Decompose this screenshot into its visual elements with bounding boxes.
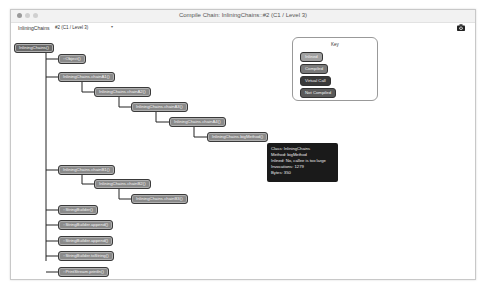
tree-node[interactable]: ::StringBuilder(): [58, 205, 98, 215]
title-bar: Compile Chain: InliningChains::#2 (C1 / …: [11, 10, 475, 23]
tree-node[interactable]: ::StringBuilder.append(): [58, 236, 113, 246]
tree-node[interactable]: InliningChains.chainA2(): [94, 87, 151, 97]
toolbar: InliningChains #2 (C1 / Level 3) ▾: [11, 23, 475, 33]
tree-node[interactable]: ::PrintStream.println(): [58, 267, 109, 277]
tree-node[interactable]: InliningChains.chainA1(): [58, 72, 115, 82]
tree-node[interactable]: ::StringBuilder.toString(): [58, 251, 114, 261]
compile-chain-window: Compile Chain: InliningChains::#2 (C1 / …: [10, 9, 476, 280]
legend-key: Key Inlined Compiled Virtual Call Not Co…: [292, 37, 378, 101]
legend-item-compiled: Compiled: [300, 64, 328, 74]
tree-node[interactable]: InliningChains.chainA3(): [131, 102, 188, 112]
compilation-select-value: #2 (C1 / Level 3): [55, 25, 88, 30]
tree-node[interactable]: InliningChains.chainA4(): [169, 117, 226, 127]
node-tooltip: Class: InliningChains Method: bigMethod …: [267, 143, 338, 182]
camera-icon[interactable]: [457, 24, 465, 31]
tree-node[interactable]: ::StringBuilder.append(): [58, 220, 113, 230]
tree-node[interactable]: InliningChains.bigMethod(): [207, 132, 268, 142]
tree-node[interactable]: InliningChains.chainB1(): [58, 165, 115, 175]
tree-node[interactable]: ::Object(): [58, 54, 86, 64]
legend-title: Key: [293, 42, 377, 47]
tooltip-bytes: Bytes: 350: [271, 170, 334, 176]
legend-item-not-compiled: Not Compiled: [300, 88, 336, 98]
tree-node[interactable]: InliningChains.chainB2(): [94, 179, 151, 189]
chevron-down-icon: ▾: [111, 24, 113, 29]
tree-node[interactable]: InliningChains.chainB3(): [131, 194, 188, 204]
legend-item-virtual-call: Virtual Call: [300, 76, 331, 86]
legend-item-inlined: Inlined: [300, 52, 323, 62]
window-title: Compile Chain: InliningChains::#2 (C1 / …: [11, 12, 475, 18]
compilation-select[interactable]: #2 (C1 / Level 3) ▾: [55, 24, 115, 31]
class-label: InliningChains: [18, 25, 49, 31]
tree-node-root[interactable]: InliningChains(): [14, 43, 54, 53]
chain-canvas: InliningChains() ::Object() InliningChai…: [11, 34, 475, 279]
